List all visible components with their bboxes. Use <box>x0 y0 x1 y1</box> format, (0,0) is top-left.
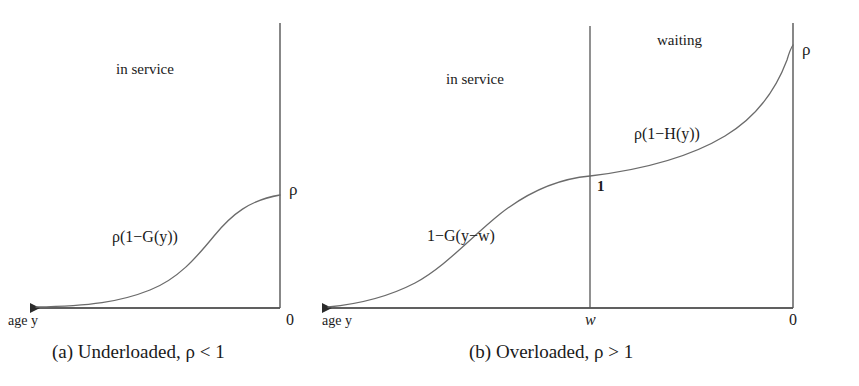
panel-b-curve-waiting <box>590 45 793 176</box>
panel-a-origin-tick: 0 <box>286 312 294 328</box>
panel-a-region-label-in-service: in service <box>116 62 174 77</box>
panel-a-rho-label: ρ <box>289 181 297 198</box>
panel-b-curve-label-waiting: ρ(1−H(y)) <box>634 126 700 142</box>
panel-b-rho-label: ρ <box>802 41 810 58</box>
figure-artwork <box>0 0 859 386</box>
panel-b-region-label-in-service: in service <box>446 72 504 87</box>
panel-a-axis-label: age y <box>8 314 38 328</box>
panel-b-region-label-waiting: waiting <box>657 33 702 48</box>
panel-b-origin-tick: 0 <box>789 312 797 328</box>
panel-a-caption: (a) Underloaded, ρ < 1 <box>52 342 225 361</box>
panel-a-curve-label: ρ(1−G(y)) <box>112 229 178 245</box>
panel-b-curve-label-service: 1−G(y−w) <box>427 228 495 244</box>
panel-b-axis-label: age y <box>322 314 352 328</box>
figure-container: in service ρ(1−G(y)) age y 0 ρ (a) Under… <box>0 0 859 386</box>
panel-b-caption: (b) Overloaded, ρ > 1 <box>469 342 633 361</box>
panel-b-axes <box>322 23 793 308</box>
panel-b-level-one-label: 1 <box>597 179 605 194</box>
panel-b-w-tick: w <box>585 312 596 328</box>
panel-a-curve <box>36 195 280 307</box>
